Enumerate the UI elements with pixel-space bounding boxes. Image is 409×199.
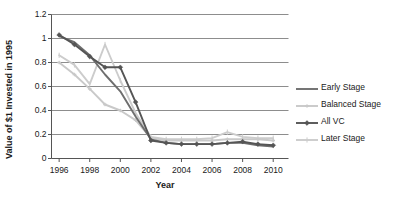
legend-swatch-icon [296, 115, 318, 127]
y-tick-label: 0.4 [25, 105, 47, 115]
data-series-group [57, 33, 276, 148]
y-tick-label: 0.6 [25, 81, 47, 91]
y-tick-label: 0 [25, 153, 47, 163]
chart-container: Value of $1 Invested in 1995 Year 00.20.… [0, 0, 409, 199]
legend-item-label: Early Stage [321, 82, 365, 92]
x-tick-label: 2006 [197, 165, 227, 175]
chart-legend: Early StageBalanced StageAll VCLater Sta… [296, 78, 381, 146]
x-tick-label: 2004 [166, 165, 196, 175]
gridlines-group [52, 15, 289, 135]
legend-item-label: All VC [321, 116, 345, 126]
y-tick-label: 1.2 [25, 9, 47, 19]
x-tick-label: 2010 [258, 165, 288, 175]
x-tick-label: 2000 [105, 165, 135, 175]
legend-item-early-stage[interactable]: Early Stage [296, 78, 381, 95]
x-tick-marks-group [59, 159, 273, 163]
x-tick-label: 2008 [228, 165, 258, 175]
data-point-marker [194, 142, 199, 147]
x-tick-label: 2002 [136, 165, 166, 175]
x-tick-label: 1998 [75, 165, 105, 175]
x-tick-label: 1996 [44, 165, 74, 175]
legend-swatch-icon [296, 132, 318, 144]
y-tick-label: 0.2 [25, 129, 47, 139]
legend-item-later-stage[interactable]: Later Stage [296, 129, 381, 146]
legend-item-all-vc[interactable]: All VC [296, 112, 381, 129]
data-point-marker [305, 120, 310, 125]
legend-swatch-icon [296, 81, 318, 93]
x-axis-title: Year [40, 180, 290, 190]
series-line [59, 63, 273, 141]
data-point-marker [179, 142, 184, 147]
legend-swatch-icon [296, 98, 318, 110]
series-balanced-stage [57, 61, 275, 143]
legend-item-balanced-stage[interactable]: Balanced Stage [296, 95, 381, 112]
data-point-marker [225, 141, 230, 146]
y-axis-title: Value of $1 Invested in 1995 [2, 0, 16, 199]
legend-item-label: Balanced Stage [321, 99, 381, 109]
y-tick-marks-group [48, 15, 52, 159]
y-tick-label: 0.8 [25, 57, 47, 67]
legend-item-label: Later Stage [321, 133, 365, 143]
y-tick-label: 1 [25, 33, 47, 43]
data-point-marker [210, 142, 215, 147]
